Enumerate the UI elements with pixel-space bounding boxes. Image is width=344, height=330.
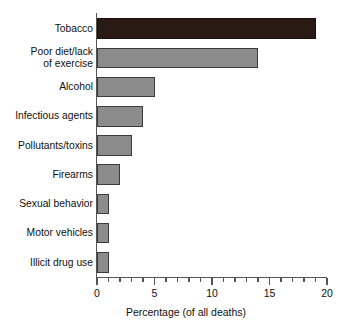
bar[interactable] (97, 252, 109, 272)
x-axis-minor-tick (108, 278, 109, 282)
x-axis-minor-tick (234, 278, 235, 282)
x-axis-tick-label: 5 (135, 287, 175, 299)
category-label: Poor diet/lack of exercise (0, 46, 93, 69)
x-axis-tick-label: 20 (307, 287, 344, 299)
bar-row (97, 106, 327, 126)
x-axis-title: Percentage (of all deaths) (0, 306, 344, 318)
bar-row (97, 252, 327, 272)
bar[interactable] (97, 223, 109, 243)
bar[interactable] (97, 194, 109, 214)
bar-row (97, 48, 327, 68)
category-label: Sexual behavior (0, 198, 93, 210)
x-axis-major-tick (154, 278, 155, 285)
x-axis-minor-tick (223, 278, 224, 282)
x-axis-major-tick (269, 278, 270, 285)
x-axis-minor-tick (303, 278, 304, 282)
x-axis-minor-tick (200, 278, 201, 282)
bar[interactable] (97, 106, 143, 126)
x-axis-minor-tick (292, 278, 293, 282)
x-axis-minor-tick (177, 278, 178, 282)
bar-row (97, 164, 327, 184)
x-axis-major-tick (326, 278, 327, 285)
bar[interactable] (97, 48, 258, 68)
bar-row (97, 135, 327, 155)
x-axis-minor-tick (315, 278, 316, 282)
bar-row (97, 77, 327, 97)
bar[interactable] (97, 18, 316, 38)
bar[interactable] (97, 164, 120, 184)
bar-row (97, 194, 327, 214)
category-label: Infectious agents (0, 110, 93, 122)
x-axis-major-tick (96, 278, 97, 285)
x-axis-minor-tick (188, 278, 189, 282)
x-axis-minor-tick (246, 278, 247, 282)
x-axis-major-tick (211, 278, 212, 285)
bar-row (97, 223, 327, 243)
bar[interactable] (97, 77, 155, 97)
x-axis-minor-tick (257, 278, 258, 282)
x-axis-minor-tick (280, 278, 281, 282)
x-axis-minor-tick (119, 278, 120, 282)
category-label: Alcohol (0, 81, 93, 93)
x-axis-tick-label: 0 (77, 287, 117, 299)
category-label: Illicit drug use (0, 257, 93, 269)
category-label: Motor vehicles (0, 227, 93, 239)
category-label: Tobacco (0, 23, 93, 35)
category-label: Firearms (0, 169, 93, 181)
x-axis-minor-tick (142, 278, 143, 282)
bar-chart-figure: TobaccoPoor diet/lack of exerciseAlcohol… (0, 0, 344, 330)
bar[interactable] (97, 135, 132, 155)
x-axis-minor-tick (165, 278, 166, 282)
category-label: Pollutants/toxins (0, 140, 93, 152)
x-axis-minor-tick (131, 278, 132, 282)
bar-row (97, 18, 327, 38)
x-axis-tick-label: 15 (250, 287, 290, 299)
x-axis-tick-label: 10 (192, 287, 232, 299)
